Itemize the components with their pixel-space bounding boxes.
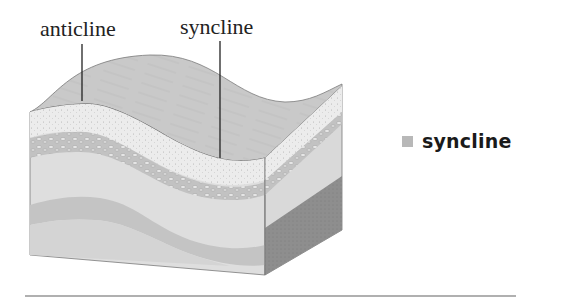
anticline-label: anticline [40, 16, 116, 41]
legend-label: syncline [422, 130, 512, 152]
legend-swatch [402, 136, 413, 147]
legend: syncline [402, 130, 512, 152]
divider-rule [25, 295, 516, 297]
syncline-label: syncline [180, 14, 253, 39]
